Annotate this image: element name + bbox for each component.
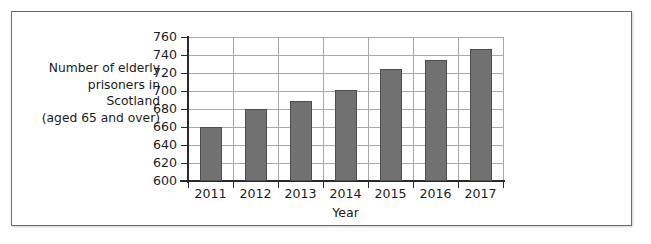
y-axis-tick-label: 600 xyxy=(139,174,177,187)
x-axis-tick-label: 2017 xyxy=(453,187,509,201)
chart-figure: Number of elderly prisoners in Scotland … xyxy=(0,0,651,244)
bar-2014 xyxy=(335,90,357,181)
gridline-vertical xyxy=(458,37,459,181)
y-axis-tick-label: 640 xyxy=(139,138,177,151)
y-axis-tick-label: 680 xyxy=(139,102,177,115)
y-axis-tick-mark xyxy=(181,181,188,182)
y-axis-tick-label: 720 xyxy=(139,66,177,79)
bar-2015 xyxy=(380,69,402,181)
x-axis-label: Year xyxy=(188,205,503,220)
bar-2011 xyxy=(200,127,222,181)
gridline-vertical xyxy=(278,37,279,181)
y-axis-tick-mark xyxy=(181,37,188,38)
y-axis-tick-label: 700 xyxy=(139,84,177,97)
y-axis-tick-mark xyxy=(181,163,188,164)
bar-2013 xyxy=(290,101,312,181)
y-axis-tick-label: 740 xyxy=(139,48,177,61)
y-axis-tick-label: 760 xyxy=(139,30,177,43)
gridline-horizontal xyxy=(188,55,503,56)
y-axis-tick-labels: 600620640660680700720740760 xyxy=(139,0,177,244)
gridline-vertical xyxy=(233,37,234,181)
gridline-horizontal xyxy=(188,73,503,74)
plot-right-edge xyxy=(503,37,504,181)
y-axis-tick-mark xyxy=(181,109,188,110)
y-axis-tick-label: 660 xyxy=(139,120,177,133)
gridline-vertical xyxy=(323,37,324,181)
gridline-vertical xyxy=(368,37,369,181)
bar-2012 xyxy=(245,109,267,181)
bar-2016 xyxy=(425,60,447,182)
gridline-vertical xyxy=(413,37,414,181)
gridline-horizontal xyxy=(188,37,503,38)
y-axis-tick-mark xyxy=(181,145,188,146)
bar-2017 xyxy=(470,49,492,181)
y-axis-tick-mark xyxy=(181,127,188,128)
y-axis-tick-mark xyxy=(181,73,188,74)
y-axis-tick-mark xyxy=(181,55,188,56)
y-axis-tick-label: 620 xyxy=(139,156,177,169)
y-axis-tick-mark xyxy=(181,91,188,92)
